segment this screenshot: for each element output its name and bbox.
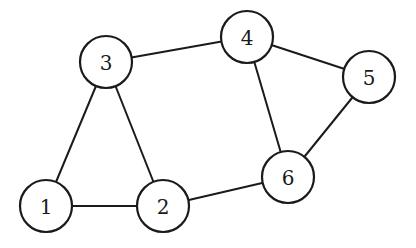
- graph-svg: 123456: [0, 0, 416, 248]
- node-4: 4: [221, 11, 273, 63]
- node-3: 3: [80, 36, 132, 88]
- node-2: 2: [137, 180, 189, 232]
- node-label: 6: [282, 166, 295, 190]
- node-label: 5: [363, 66, 376, 90]
- graph-diagram: 123456: [0, 0, 416, 248]
- node-6: 6: [262, 151, 314, 203]
- node-label: 2: [157, 195, 170, 219]
- node-label: 1: [40, 195, 53, 219]
- node-label: 4: [241, 26, 254, 50]
- node-5: 5: [343, 51, 395, 103]
- node-label: 3: [100, 51, 113, 75]
- node-1: 1: [20, 180, 72, 232]
